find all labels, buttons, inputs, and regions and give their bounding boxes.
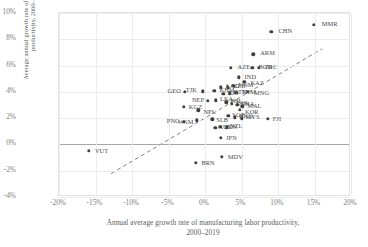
y-tick-label: 2% (0, 113, 16, 121)
x-tick-label: -10% (111, 199, 151, 207)
data-point-label: PNG (167, 118, 180, 125)
gridline-horizontal (59, 66, 349, 67)
data-point-label: CHN (278, 28, 292, 35)
y-axis-title: Average annual growth rate of aggregate … (22, 0, 36, 112)
data-point-label: NZL (230, 123, 243, 130)
y-tick-label: -2% (0, 166, 16, 174)
x-tick-label: 15% (294, 199, 334, 207)
x-tick-label: -20% (38, 199, 78, 207)
gridline-horizontal (59, 118, 349, 119)
x-tick-label: 5% (221, 199, 261, 207)
data-point-label: NPL (203, 109, 215, 116)
x-tick-label: 0% (184, 199, 224, 207)
y-tick-label: -4% (0, 192, 16, 200)
data-point-label: AZE (238, 64, 251, 71)
data-point-label: JPN (226, 135, 237, 142)
gridline-vertical (278, 13, 279, 195)
gridline-vertical (169, 13, 170, 195)
gridline-vertical (132, 13, 133, 195)
gridline-vertical (96, 13, 97, 195)
gridline-horizontal (59, 39, 349, 40)
data-point-label: VUT (95, 148, 108, 155)
x-tick-label: -15% (75, 199, 115, 207)
x-axis-title: Annual average growth rate of manufactur… (48, 219, 358, 238)
y-tick-label: 0% (0, 139, 16, 147)
y-tick-label: 10% (0, 8, 16, 16)
data-point-label: MYS (246, 114, 260, 121)
x-tick-label: -5% (148, 199, 188, 207)
gridline-vertical (59, 13, 60, 195)
gridline-vertical (205, 13, 206, 195)
trendline (59, 13, 349, 195)
gridline-horizontal (59, 92, 349, 93)
data-point-label: PRC (265, 64, 277, 71)
gridline-vertical (351, 13, 352, 195)
y-tick-label: 6% (0, 61, 16, 69)
data-point-label: BRN (202, 160, 215, 167)
x-tick-label: 20% (330, 199, 368, 207)
data-point-label: MNG (254, 90, 269, 97)
x-tick-label: 10% (257, 199, 297, 207)
data-point-label: TJK (186, 87, 197, 94)
data-point-label: KGZ (189, 104, 202, 111)
gridline-vertical (315, 13, 316, 195)
gridline-horizontal (59, 171, 349, 172)
plot-area: MMRCHNARMAZEBGDPRCINDKAZVNMUZBLAOKHMTJKM… (58, 12, 350, 196)
data-point-label: GEO (168, 88, 181, 95)
data-point-label: MMR (322, 21, 338, 28)
data-point-label: ARM (260, 50, 275, 57)
y-tick-label: 4% (0, 87, 16, 95)
scatter-chart: Average annual growth rate of aggregate … (0, 0, 368, 247)
data-point-label: MDV (228, 154, 243, 161)
data-point-label: WSM (178, 119, 193, 126)
gridline-horizontal (59, 13, 349, 14)
y-tick-label: 8% (0, 34, 16, 42)
zero-axis-line (59, 144, 349, 145)
data-point-label: FJI (273, 116, 281, 123)
